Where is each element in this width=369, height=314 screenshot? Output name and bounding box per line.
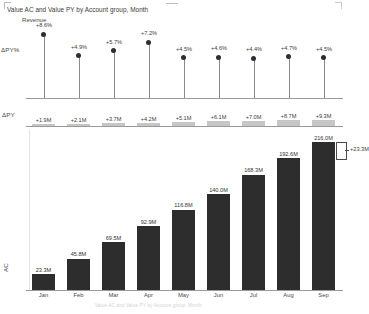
marker-dot [321, 55, 326, 60]
delta-leader-line [345, 150, 349, 151]
marker-dot [216, 55, 221, 60]
ac-bars-panel: 23.3M45.8M69.5M92.9M116.8M140.0M168.3M19… [26, 130, 341, 290]
delta-py-pct-value: +4.4% [246, 46, 262, 52]
delta-py-pct-marker: +4.5% [324, 58, 325, 98]
x-axis-tick-label: Apr [144, 292, 153, 298]
delta-py-pct-value: +7.2% [141, 30, 157, 36]
marker-stem [289, 57, 290, 98]
x-axis-tick-label: Jul [250, 292, 257, 298]
value-axis-line [29, 130, 30, 290]
top-tick-mark [166, 3, 178, 4]
bar-value-label: 140.0M [209, 187, 228, 193]
marker-dot [181, 55, 186, 60]
bar-value-label: 92.9M [141, 219, 157, 225]
x-axis-tick-label: Jan [39, 292, 48, 298]
bar-value-label: 192.6M [279, 151, 298, 157]
bar-column: 192.6M [277, 158, 300, 290]
bar-value-label: 45.8M [71, 251, 87, 257]
bar-column: 116.8M [172, 210, 195, 290]
bar-column: 140.0M [207, 194, 230, 290]
delta-py-pct-marker: +5.7% [114, 51, 115, 98]
category-axis [26, 290, 343, 291]
delta-annotation-label: +23.3M [350, 146, 369, 152]
delta-py-pct-value: +5.7% [106, 39, 122, 45]
marker-stem [219, 57, 220, 98]
delta-py-pct-value: +4.9% [71, 44, 87, 50]
marker-stem [79, 56, 80, 98]
delta-py-value: +8.7M [281, 113, 297, 119]
delta-py-pct-marker: +4.5% [184, 58, 185, 98]
marker-dot [111, 48, 116, 53]
marker-dot [146, 40, 151, 45]
x-axis-tick-label: Aug [283, 292, 293, 298]
delta-py-pct-axis [26, 98, 343, 99]
bar-value-label: 69.5M [106, 235, 122, 241]
axis-label-delta-py-pct: ΔPY% [1, 46, 19, 53]
delta-py-pct-marker: +7.2% [149, 42, 150, 98]
delta-py-value: +5.1M [176, 115, 192, 121]
corner-mark-right [335, 2, 342, 9]
bar-column: 216.0M [312, 142, 335, 290]
delta-py-value: +1.9M [36, 117, 52, 123]
bar-value-label: 23.3M [36, 267, 52, 273]
delta-py-pct-marker: +4.6% [219, 57, 220, 98]
x-axis-tick-label: Sep [318, 292, 328, 298]
delta-py-pct-panel: +8.6%+4.9%+5.7%+7.2%+4.5%+4.6%+4.4%+4.7%… [26, 20, 341, 98]
delta-py-value: +9.3M [316, 113, 332, 119]
footer-note: Value AC and Value PY by Account group, … [95, 303, 202, 308]
marker-stem [254, 58, 255, 98]
bar-column: 92.9M [137, 226, 160, 290]
marker-stem [184, 58, 185, 98]
marker-stem [44, 34, 45, 98]
delta-py-value: +4.2M [141, 116, 157, 122]
delta-py-pct-value: +8.6% [36, 22, 52, 28]
delta-py-pct-value: +4.5% [176, 46, 192, 52]
delta-py-pct-marker: +8.6% [44, 34, 45, 98]
x-axis-tick-label: May [178, 292, 189, 298]
x-axis-tick-label: Feb [74, 292, 84, 298]
bar-column: 23.3M [32, 274, 55, 290]
delta-py-value: +3.7M [106, 116, 122, 122]
bar-value-label: 116.8M [174, 202, 192, 208]
x-axis-tick-label: Jun [214, 292, 223, 298]
delta-py-value: +7.0M [246, 114, 262, 120]
delta-py-value: +2.1M [71, 117, 87, 123]
delta-py-axis [26, 126, 343, 127]
delta-py-pct-value: +4.7% [281, 45, 297, 51]
marker-dot [251, 56, 256, 61]
delta-py-pct-marker: +4.4% [254, 58, 255, 98]
marker-stem [324, 58, 325, 98]
delta-py-value: +6.1M [211, 114, 227, 120]
delta-py-pct-marker: +4.9% [79, 56, 80, 98]
delta-py-pct-marker: +4.7% [289, 57, 290, 98]
bar-value-label: 216.0M [314, 135, 333, 141]
marker-dot [76, 53, 81, 58]
marker-stem [149, 42, 150, 98]
bar-column: 69.5M [102, 242, 125, 290]
marker-dot [286, 54, 291, 59]
delta-py-panel: +1.9M+2.1M+3.7M+4.2M+5.1M+6.1M+7.0M+8.7M… [26, 104, 341, 126]
page-title: Value AC and Value PY by Account group, … [7, 6, 148, 13]
marker-dot [41, 32, 46, 37]
delta-py-pct-value: +4.6% [211, 45, 227, 51]
axis-label-ac: AC [2, 263, 9, 272]
marker-stem [114, 51, 115, 98]
delta-bracket [336, 142, 347, 160]
bar-column: 168.3M [242, 175, 265, 290]
axis-label-delta-py: ΔPY [2, 111, 15, 118]
bar-column: 45.8M [67, 259, 90, 290]
delta-py-pct-value: +4.5% [316, 46, 332, 52]
x-axis-tick-label: Mar [109, 292, 119, 298]
bar-value-label: 168.3M [244, 167, 263, 173]
